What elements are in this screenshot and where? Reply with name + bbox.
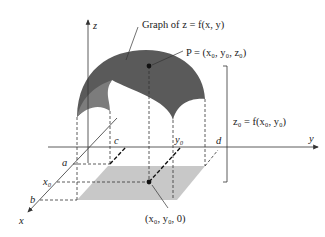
height-label: z₀ = f(x₀, y₀) [233, 116, 287, 128]
base-point-label: (x₀, y₀, 0) [145, 213, 186, 225]
y-axis-label: y [308, 133, 314, 144]
double-integral-diagram: z y x Graph of z = f(x, y) P = (x₀, y₀, … [0, 0, 325, 237]
tick-c: c [114, 135, 119, 146]
point-base [147, 180, 152, 185]
point-P-label: P = (x₀, y₀, z₀) [186, 47, 247, 59]
tick-x0: x₀ [42, 176, 52, 187]
graph-title: Graph of z = f(x, y) [142, 19, 225, 31]
tick-b: b [30, 194, 35, 205]
x-axis-label: x [18, 215, 24, 226]
tick-d: d [216, 135, 222, 146]
point-P [147, 64, 152, 69]
z-axis-label: z [92, 20, 97, 31]
height-bracket [223, 66, 227, 182]
surface [77, 50, 205, 120]
tick-y0: y₀ [174, 134, 184, 145]
tick-a: a [62, 157, 67, 168]
region-R [77, 166, 205, 200]
